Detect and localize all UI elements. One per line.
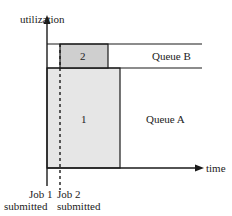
x-axis-arrow-icon bbox=[195, 165, 204, 172]
job-1-label: 1 bbox=[81, 113, 87, 125]
queue-b-label: Queue B bbox=[152, 50, 191, 62]
job-1-submitted-line2: submitted bbox=[4, 200, 47, 212]
job-2-label: 2 bbox=[80, 50, 86, 62]
x-axis-label: time bbox=[206, 162, 226, 174]
job-1-submitted-line1: Job 1 bbox=[29, 188, 53, 200]
job-2-submitted-line2: submitted bbox=[57, 200, 100, 212]
utilization-diagram bbox=[0, 0, 232, 216]
job-2-submitted-line1: Job 2 bbox=[57, 188, 81, 200]
queue-a-label: Queue A bbox=[146, 113, 185, 125]
y-axis-label: utilization bbox=[20, 13, 65, 25]
